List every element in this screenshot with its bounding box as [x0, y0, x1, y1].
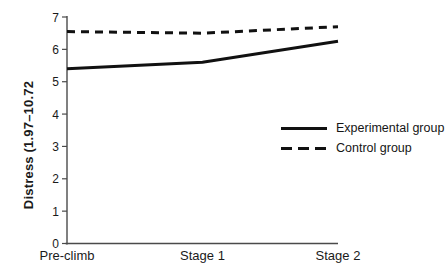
y-tick-label: 6: [52, 43, 59, 57]
y-tick-label: 1: [52, 205, 59, 219]
x-tick-label: Stage 2: [316, 248, 361, 263]
y-tick-label: 7: [52, 11, 59, 25]
solid-line-key-icon: [281, 127, 327, 130]
control-group-line: [67, 27, 338, 33]
legend: Experimental group Control group: [281, 118, 444, 158]
legend-item-experimental: Experimental group: [281, 118, 444, 138]
legend-label-experimental: Experimental group: [336, 121, 444, 135]
y-tick-label: 3: [52, 140, 59, 154]
x-tick-label: Pre-climb: [40, 248, 95, 263]
y-tick-label: 4: [52, 108, 59, 122]
dashed-line-key-icon: [281, 147, 327, 150]
legend-label-control: Control group: [336, 141, 412, 155]
line-chart-figure: Distress (1.97–10.72 01234567Pre-climbSt…: [0, 0, 446, 278]
experimental-group-line: [67, 41, 338, 69]
legend-item-control: Control group: [281, 138, 444, 158]
y-tick-label: 5: [52, 75, 59, 89]
x-tick-label: Stage 1: [180, 248, 225, 263]
y-tick-label: 2: [52, 172, 59, 186]
